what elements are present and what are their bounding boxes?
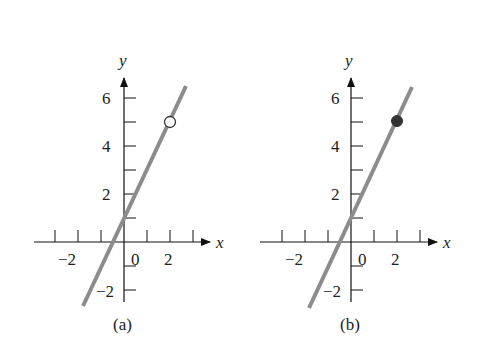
x-tick-label-0: 0 [358,250,367,269]
y-tick-label-2: 2 [331,185,340,204]
x-tick-label-neg2: −2 [58,250,76,269]
panel-a: −2 0 2 6 4 2 −2 x y (a) [34,51,224,334]
x-tick-label-0: 0 [131,250,140,269]
y-axis-label: y [117,51,127,70]
y-tick-label-2: 2 [102,185,111,204]
y-tick-label-neg2: −2 [323,282,341,301]
panel-label-a: (a) [113,315,132,334]
figure: −2 0 2 6 4 2 −2 x y (a) [0,0,478,346]
x-tick-label-neg2: −2 [285,250,303,269]
x-axis-label: x [215,233,224,252]
x-tick-label-2: 2 [391,250,400,269]
x-tick-label-2: 2 [164,250,173,269]
x-axis-label: x [442,233,451,252]
y-tick-label-6: 6 [331,89,340,108]
y-tick-label-4: 4 [102,137,111,156]
open-point-marker [165,117,176,128]
y-tick-label-neg2: −2 [96,282,114,301]
panel-label-b: (b) [340,315,360,334]
y-tick-label-4: 4 [331,137,340,156]
y-tick-label-6: 6 [102,89,111,108]
y-axis-label: y [343,51,353,70]
panel-b: −2 0 2 6 4 2 −2 x y (b) [260,51,451,334]
filled-point-marker [392,116,403,127]
